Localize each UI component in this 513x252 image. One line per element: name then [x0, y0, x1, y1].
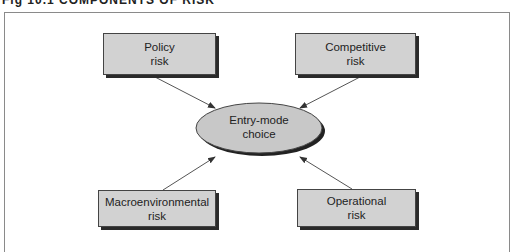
- node-label-line1: Macroenvironmental: [105, 195, 209, 209]
- arrow-competitive-to-center: [300, 77, 360, 108]
- node-competitive-risk: Competitive risk: [295, 33, 416, 75]
- node-macroenvironmental-risk: Macroenvironmental risk: [98, 190, 216, 227]
- arrow-macro-to-center: [163, 157, 215, 190]
- center-node-entry-mode-choice: Entry-mode choice: [197, 113, 321, 141]
- node-label-line2: risk: [327, 208, 386, 222]
- node-label-line2: risk: [144, 54, 175, 68]
- node-label-line1: Policy: [144, 40, 175, 54]
- center-label-line1: Entry-mode: [197, 113, 321, 127]
- node-policy-risk: Policy risk: [103, 33, 216, 75]
- node-label-line1: Competitive: [325, 40, 386, 54]
- node-label-line2: risk: [105, 209, 209, 223]
- node-label-line2: risk: [325, 54, 386, 68]
- arrow-operational-to-center: [300, 157, 352, 189]
- arrow-policy-to-center: [155, 77, 215, 108]
- center-label-line2: choice: [197, 127, 321, 141]
- node-operational-risk: Operational risk: [297, 189, 416, 227]
- node-label-line1: Operational: [327, 194, 386, 208]
